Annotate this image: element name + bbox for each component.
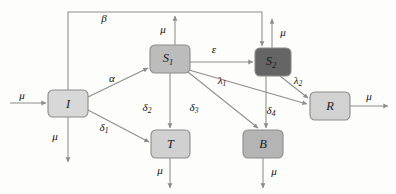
edge-label-mu-S1: μ (159, 23, 166, 35)
edge-label-alpha: α (109, 72, 115, 84)
svg-text:R: R (325, 98, 334, 112)
edge-label-delta4: δ4 (267, 104, 276, 118)
node-I[interactable]: I (48, 90, 88, 117)
edge-I-to-T (88, 110, 149, 142)
edge-label-mu-I: μ (51, 130, 58, 142)
edge-label-mu-S2: μ (279, 26, 286, 38)
node-S1-sub: 1 (169, 56, 173, 66)
node-B-label: B (259, 136, 267, 150)
edge-label-mu-R: μ (365, 90, 372, 102)
edge-label-lambda2: λ2 (293, 74, 303, 88)
edge-label-delta1: δ1 (100, 121, 109, 135)
node-R[interactable]: R (310, 92, 350, 120)
node-T-label: T (167, 136, 175, 150)
edge-label-beta: β (100, 12, 107, 24)
svg-text:I: I (65, 96, 71, 110)
svg-text:B: B (259, 136, 267, 150)
node-I-label: I (65, 96, 71, 110)
edge-label-epsilon: ε (212, 43, 217, 55)
node-R-label: R (325, 98, 334, 112)
edge-label-mu-in: μ (18, 89, 25, 101)
edge-label-delta2: δ2 (143, 101, 152, 115)
svg-text:T: T (167, 136, 175, 150)
node-B[interactable]: B (243, 130, 283, 158)
edge-label-delta3: δ3 (190, 101, 199, 115)
node-S2[interactable]: S2 (255, 48, 291, 76)
edge-I-to-S1 (88, 68, 148, 97)
flow-diagram: I S1 S2 T (0, 0, 396, 194)
edge-label-mu-T: μ (156, 164, 163, 176)
edge-label-mu-B: μ (270, 165, 277, 177)
edge-label-lambda1: λ1 (217, 74, 227, 88)
node-S1[interactable]: S1 (150, 45, 190, 73)
diagram-canvas: I S1 S2 T (0, 0, 396, 194)
node-T[interactable]: T (151, 130, 190, 158)
